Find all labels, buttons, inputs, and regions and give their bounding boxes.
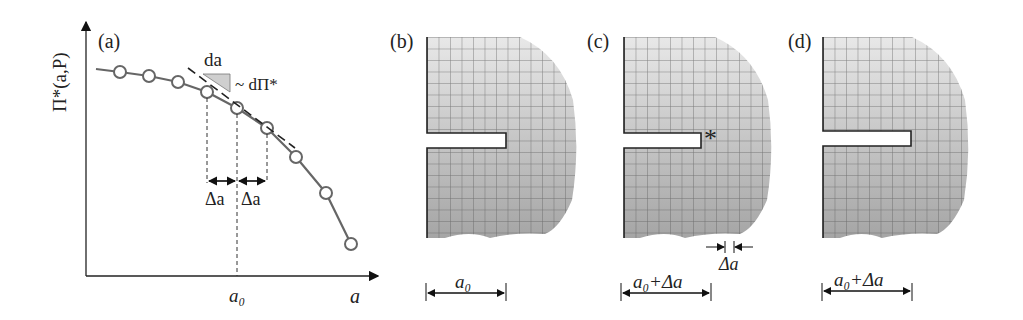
panel-a-label: (a) bbox=[98, 30, 120, 53]
panel-b-plate bbox=[426, 37, 576, 301]
panel-c-plate bbox=[621, 37, 771, 301]
panel-c-delta-label: Δa bbox=[718, 254, 739, 274]
panel-b-label: (b) bbox=[390, 30, 413, 53]
delta-a-left-label: Δa bbox=[205, 189, 225, 209]
panel-b-dim-label: a₀ bbox=[455, 271, 471, 292]
panel-c-dim-label: a₀+Δa bbox=[633, 271, 683, 292]
panel-d-plate bbox=[822, 37, 968, 301]
x-axis-label: a bbox=[350, 285, 360, 307]
panel-d-label: (d) bbox=[788, 30, 811, 53]
figure-canvas: (a) Π*(a,P) a a₀ da ~ dΠ* Δa Δa (b) a₀ *… bbox=[0, 0, 1023, 320]
crack-tip-marker: * bbox=[704, 124, 717, 153]
delta-a-right-label: Δa bbox=[241, 189, 261, 209]
y-axis-label: Π*(a,P) bbox=[49, 52, 71, 112]
a0-tick-label: a₀ bbox=[229, 285, 245, 306]
panel-d-dim-label: a₀+Δa bbox=[834, 269, 884, 290]
panel-a-plot bbox=[86, 22, 378, 276]
slope-da-label: da bbox=[204, 49, 223, 70]
slope-dpi-label: ~ dΠ* bbox=[235, 75, 278, 94]
panel-c-label: (c) bbox=[587, 30, 609, 53]
